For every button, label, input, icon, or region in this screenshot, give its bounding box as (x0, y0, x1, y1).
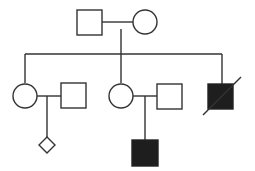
individual-III-1-unknown-sex (39, 137, 55, 153)
individual-I-2-female (133, 10, 157, 34)
individual-II-2-male (61, 83, 86, 108)
individual-II-5-affected-male (208, 84, 233, 109)
pedigree-diagram (0, 0, 255, 171)
pedigree-svg (0, 0, 255, 171)
individual-II-4-male (157, 84, 182, 109)
individual-III-2-affected-male (132, 140, 158, 166)
individual-I-1-male (77, 10, 102, 35)
individual-II-3-female (109, 84, 133, 108)
individual-II-1-female (13, 84, 37, 108)
